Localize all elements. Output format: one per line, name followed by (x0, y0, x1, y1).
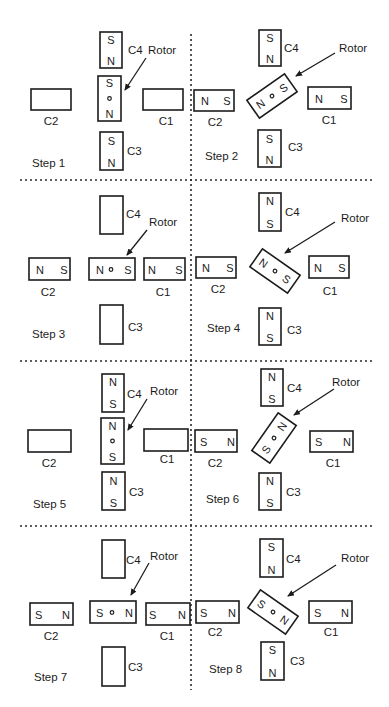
pole-label: S (175, 264, 182, 276)
pole-label: S (314, 607, 321, 619)
coil-label-c2: C2 (44, 630, 59, 642)
pole-label: S (269, 644, 276, 656)
coil-label-c1: C1 (156, 286, 171, 298)
rotor-pole-b: N (106, 108, 114, 120)
coil-c4 (100, 196, 123, 234)
pole-label: S (268, 541, 275, 553)
coil-c2: N S (194, 90, 234, 111)
pole-label: N (266, 53, 274, 65)
coil-label-c1: C1 (326, 457, 341, 469)
coil-label-c1: C1 (160, 453, 175, 465)
pole-label: S (266, 133, 273, 145)
pole-label: N (62, 609, 70, 621)
coil-label-c4: C4 (285, 206, 300, 218)
coil-c3: S N (261, 642, 284, 680)
step-label: Step 6 (206, 493, 239, 505)
rotor-label: Rotor (341, 552, 369, 564)
step-3-panel: C4 Rotor N S C3 N S C2 N S C1 Step 3 (29, 196, 185, 344)
pole-label: S (266, 332, 273, 344)
coil-c2: S N (196, 601, 239, 623)
pole-label: S (338, 262, 345, 274)
coil-c2: S N (195, 430, 237, 452)
pole-label: N (36, 264, 44, 276)
step-5-panel: N S C4 N S Rotor N S C3 C2 C1 Step 5 (28, 374, 188, 510)
pole-label: N (108, 157, 116, 169)
coil-c1 (143, 89, 183, 110)
rotor: S N (90, 601, 136, 623)
step-label: Step 5 (33, 498, 66, 510)
rotor-arrow-icon (131, 563, 149, 595)
stepper-motor-diagram: S N C4 S N Rotor S N C3 C2 C1 Step 1 (0, 0, 389, 707)
rotor-pole-a: S (106, 77, 113, 89)
coil-c1: S N (309, 601, 352, 623)
rotor-label: Rotor (332, 376, 360, 388)
coil-label-c3: C3 (287, 324, 302, 336)
pole-label: S (266, 497, 273, 509)
pole-label: S (200, 607, 207, 619)
pole-label: N (148, 264, 156, 276)
step-label: Step 2 (205, 150, 238, 162)
pole-label: S (35, 609, 42, 621)
rotor-label: Rotor (150, 550, 178, 562)
pole-label: N (107, 55, 115, 67)
rotor-label: Rotor (341, 212, 369, 224)
coil-label-c3: C3 (288, 141, 303, 153)
rotor-label: Rotor (148, 44, 176, 56)
coil-c1: N S (308, 87, 351, 109)
rotor-pole-a: N (109, 420, 117, 432)
coil-c1: S N (310, 431, 353, 452)
step-7-panel: C4 Rotor S N C3 S N C2 S N C1 Step 7 (30, 540, 190, 686)
rotor-pole-a: S (96, 607, 103, 619)
coil-label-c1: C1 (160, 630, 175, 642)
coil-label-c1: C1 (159, 115, 174, 127)
coil-c3: S N (100, 132, 123, 170)
coil-label-c3: C3 (286, 486, 301, 498)
coil-c4: N S (261, 369, 283, 406)
coil-c2 (28, 430, 71, 452)
pole-label: S (268, 393, 275, 405)
pole-label: N (314, 262, 322, 274)
step-label: Step 7 (34, 671, 67, 683)
pole-label: N (268, 564, 276, 576)
coil-c4: S N (100, 32, 122, 68)
rotor-pole-b: S (109, 451, 116, 463)
pole-label: N (341, 607, 349, 619)
rotor: S N (98, 76, 121, 121)
rotor-arrow-icon (128, 399, 147, 430)
pole-label: N (202, 262, 210, 274)
coil-c3: S N (258, 130, 281, 167)
coil-label-c3: C3 (128, 321, 143, 333)
rotor: N S (101, 418, 124, 464)
coil-label-c3: C3 (290, 655, 305, 667)
pole-label: S (200, 436, 207, 448)
coil-label-c4: C4 (287, 382, 302, 394)
coil-c1 (144, 429, 188, 451)
coil-label-c2: C2 (42, 457, 57, 469)
rotor-label: Rotor (150, 385, 178, 397)
rotor-label: Rotor (149, 216, 177, 228)
rotor-label: Rotor (339, 42, 367, 54)
step-label: Step 8 (209, 663, 242, 675)
coil-c1: N S (144, 258, 185, 280)
rotor: N S (250, 249, 300, 293)
step-label: Step 3 (32, 328, 65, 340)
pole-label: N (266, 195, 274, 207)
coil-label-c2: C2 (208, 457, 223, 469)
rotor-arrow-icon (285, 222, 335, 253)
pole-label: N (227, 436, 235, 448)
pole-label: S (315, 436, 322, 448)
coil-label-c4: C4 (126, 554, 141, 566)
pole-label: N (201, 95, 209, 107)
coil-label-c2: C2 (44, 115, 59, 127)
coil-label-c3: C3 (129, 486, 144, 498)
rotor-arrow-icon (296, 53, 335, 76)
rotor-pole-b: S (124, 264, 131, 276)
step-4-panel: N S C4 N S Rotor N S C3 N S C2 N S C1 (196, 193, 369, 345)
pole-label: N (269, 667, 277, 679)
coil-label-c2: C2 (41, 286, 56, 298)
coil-label-c1: C1 (322, 114, 337, 126)
coil-c4 (102, 540, 125, 578)
pole-label: S (223, 95, 230, 107)
pole-label: S (110, 497, 117, 509)
pole-label: S (226, 262, 233, 274)
